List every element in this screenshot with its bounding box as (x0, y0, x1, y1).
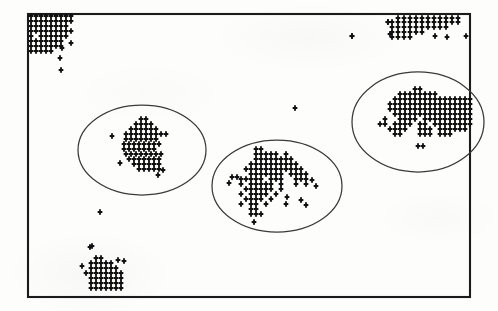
data-point (421, 143, 426, 149)
data-point (264, 201, 269, 207)
plot-frame-border (28, 14, 470, 297)
scatter-plot-figure (0, 0, 498, 311)
data-point (420, 29, 425, 35)
data-point (249, 211, 254, 217)
data-point (432, 24, 437, 30)
data-point (122, 258, 127, 264)
data-point (259, 211, 264, 217)
data-point (293, 105, 298, 111)
data-point (84, 270, 89, 276)
data-point (314, 183, 319, 189)
data-point (58, 55, 63, 61)
data-point (386, 19, 391, 25)
data-point (444, 24, 449, 30)
top-right-corner-cluster (350, 15, 469, 40)
data-point (408, 121, 413, 127)
data-point (274, 191, 279, 197)
cluster-ellipse-layer (78, 72, 484, 232)
data-point (408, 34, 413, 40)
data-point (69, 18, 74, 24)
data-point (109, 285, 114, 291)
data-point (110, 133, 115, 139)
data-point (383, 121, 388, 127)
data-point (285, 194, 290, 200)
data-point (378, 121, 383, 127)
data-point (116, 257, 121, 263)
data-point (157, 141, 162, 147)
top-left-corner-cluster (29, 13, 74, 73)
data-point (388, 106, 393, 112)
data-point (161, 167, 166, 173)
data-point (80, 263, 85, 269)
data-point (269, 186, 274, 192)
data-point (69, 28, 74, 34)
data-point (159, 131, 164, 137)
data-point (393, 111, 398, 117)
data-point (299, 176, 304, 182)
data-point (54, 43, 59, 49)
bottom-left-corner-cluster (80, 244, 127, 291)
data-point (264, 171, 269, 177)
data-point (142, 166, 147, 172)
data-point (230, 174, 235, 180)
data-point (64, 33, 69, 39)
plot-canvas (0, 0, 498, 311)
data-point (269, 196, 274, 202)
data-point (104, 285, 109, 291)
data-point (403, 126, 408, 132)
left-cluster (110, 116, 169, 178)
data-point (416, 143, 421, 149)
data-point (89, 285, 94, 291)
data-point (396, 34, 401, 40)
data-point (137, 166, 142, 172)
data-point (464, 33, 469, 39)
data-point (34, 28, 39, 34)
data-point (428, 116, 433, 122)
data-point (433, 121, 438, 127)
data-point (239, 201, 244, 207)
data-point (254, 211, 259, 217)
data-point (418, 131, 423, 137)
data-point (239, 181, 244, 187)
data-point (289, 171, 294, 177)
data-point (398, 131, 403, 137)
data-point (164, 131, 169, 137)
data-point (468, 121, 473, 127)
data-point (433, 33, 438, 39)
data-point (244, 166, 249, 172)
data-point (294, 181, 299, 187)
data-point (310, 177, 315, 183)
data-point (443, 131, 448, 137)
data-point (438, 131, 443, 137)
data-point (244, 196, 249, 202)
data-point (252, 219, 257, 225)
data-point (299, 197, 304, 203)
data-point (244, 186, 249, 192)
data-point (463, 126, 468, 132)
data-point (304, 181, 309, 187)
data-point (114, 285, 119, 291)
data-point (227, 180, 232, 186)
data-point (156, 172, 161, 178)
data-point (132, 161, 137, 167)
data-point (274, 176, 279, 182)
data-point (69, 40, 74, 46)
data-point (423, 131, 428, 137)
data-point (304, 202, 309, 208)
data-point (388, 126, 393, 132)
data-point (244, 176, 249, 182)
data-point (453, 126, 458, 132)
data-point-layer (29, 13, 473, 291)
data-point (94, 285, 99, 291)
data-point (99, 285, 104, 291)
data-point (413, 116, 418, 122)
data-point (157, 166, 162, 172)
data-point (44, 48, 49, 54)
data-point (350, 33, 355, 39)
data-point (239, 191, 244, 197)
data-point (418, 111, 423, 117)
data-point (118, 160, 123, 166)
middle-cluster (227, 146, 319, 225)
data-point (98, 209, 103, 215)
data-point (448, 131, 453, 137)
